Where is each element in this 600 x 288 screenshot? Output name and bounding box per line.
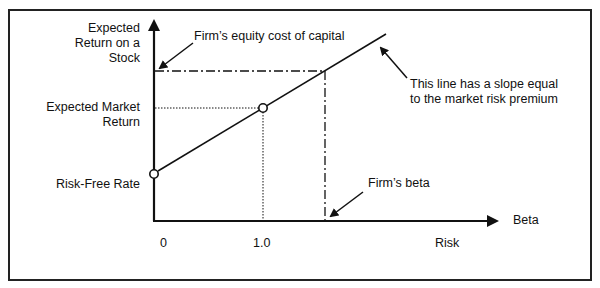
x-axis-label: Beta — [513, 213, 539, 228]
x-axis — [153, 215, 499, 227]
slope-arrow — [381, 48, 407, 78]
security-market-line — [158, 34, 386, 171]
market-return-label: Expected Market Return — [30, 100, 140, 130]
x-tick-0: 0 — [160, 236, 167, 251]
firm-beta-annotation: Firm’s beta — [368, 176, 430, 191]
market-point — [259, 104, 267, 112]
slope-annotation: This line has a slope equal to the marke… — [410, 77, 558, 107]
y-axis-label: Expected Return on a Stock — [40, 21, 140, 66]
risk-free-label: Risk-Free Rate — [30, 177, 140, 192]
firm-guides — [155, 71, 325, 220]
equity-cost-annotation: Firm’s equity cost of capital — [194, 29, 345, 44]
firm-beta-arrow — [331, 192, 363, 216]
y-axis — [148, 19, 160, 221]
x-axis-sublabel: Risk — [435, 236, 459, 251]
equity-cost-arrow — [160, 43, 193, 68]
risk-free-point — [150, 170, 158, 178]
x-tick-1: 1.0 — [253, 236, 270, 251]
